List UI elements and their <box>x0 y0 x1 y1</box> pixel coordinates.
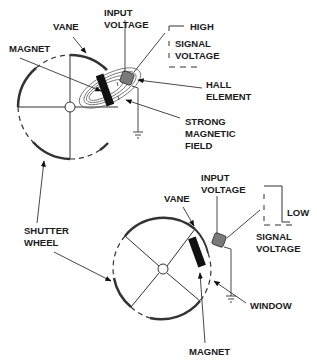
top-ground-icon <box>132 86 143 138</box>
top-magnet-label: MAGNET <box>9 43 50 54</box>
bottom-magnet-label: MAGNET <box>189 346 230 357</box>
top-vane-label: VANE <box>53 21 79 32</box>
hall-effect-shutter-diagram: VANE INPUT VOLTAGE MAGNET HIGH SIGNAL VO… <box>0 0 317 364</box>
low-label: LOW <box>287 207 309 218</box>
bottom-shutter-wheel <box>113 218 211 319</box>
top-hall-element <box>119 70 134 85</box>
bottom-input-voltage-label-2: VOLTAGE <box>201 184 246 195</box>
field-label-2: MAGNETIC <box>185 128 236 139</box>
top-input-voltage-label-2: VOLTAGE <box>104 19 149 30</box>
top-shutter-wheel <box>18 55 118 159</box>
bottom-signal-label-1: SIGNAL <box>256 231 292 242</box>
magnetic-field-lines <box>73 60 146 117</box>
top-signal-label-1: SIGNAL <box>175 38 211 49</box>
field-label-3: FIELD <box>185 140 213 151</box>
field-label-1: STRONG <box>185 116 226 127</box>
bottom-vane-label: VANE <box>164 193 190 204</box>
high-label: HIGH <box>190 21 214 32</box>
bottom-input-voltage-label-1: INPUT <box>201 172 230 183</box>
shutter-wheel-label-1: SHUTTER <box>24 225 69 236</box>
hall-element-label-2: ELEMENT <box>206 91 252 102</box>
bottom-hall-element <box>211 232 226 247</box>
top-signal-label-2: VOLTAGE <box>175 50 220 61</box>
bottom-signal-label-2: VOLTAGE <box>256 243 301 254</box>
bottom-signal-waveform <box>264 186 292 225</box>
bottom-ground-icon <box>224 247 236 302</box>
shutter-wheel-label-2: WHEEL <box>24 237 59 248</box>
hall-element-label-1: HALL <box>206 79 232 90</box>
top-input-voltage-label-1: INPUT <box>104 7 133 18</box>
window-label: WINDOW <box>250 300 292 311</box>
